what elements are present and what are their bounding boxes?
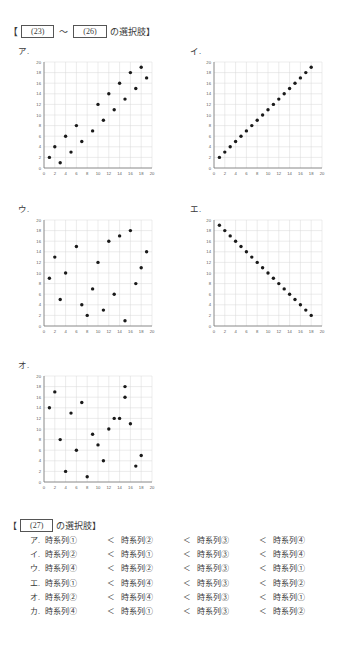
data-point: [113, 293, 116, 296]
data-point: [261, 113, 264, 116]
y-axis-tick-label: 14: [36, 91, 41, 96]
data-point: [102, 308, 105, 311]
data-point: [145, 250, 148, 253]
data-point: [283, 287, 286, 290]
x-axis-tick-label: 14: [117, 485, 122, 490]
less-than-symbol: ＜: [99, 591, 121, 602]
y-axis-tick-label: 10: [36, 271, 41, 276]
data-point: [283, 92, 286, 95]
x-axis-tick-label: 6: [75, 329, 78, 334]
y-axis-tick-label: 6: [39, 448, 42, 453]
y-axis-tick-label: 18: [36, 228, 41, 233]
x-axis-tick-label: 16: [128, 329, 133, 334]
y-axis-tick-label: 10: [206, 271, 211, 276]
x-axis-tick-label: 8: [86, 329, 89, 334]
option-row[interactable]: ア.時系列①＜時系列②＜時系列③＜時系列④: [30, 534, 327, 545]
data-point: [134, 282, 137, 285]
x-axis-tick-label: 14: [117, 171, 122, 176]
y-axis-tick-label: 18: [206, 70, 211, 75]
chart-label-u: ウ.: [18, 202, 29, 214]
data-point: [223, 229, 226, 232]
option-row[interactable]: ウ.時系列④＜時系列②＜時系列③＜時系列①: [30, 562, 327, 573]
y-axis-tick-label: 20: [36, 218, 41, 223]
data-point: [123, 319, 126, 322]
data-point: [69, 411, 72, 414]
data-point: [91, 287, 94, 290]
x-axis-tick-label: 4: [234, 171, 237, 176]
x-axis-tick-label: 10: [96, 485, 101, 490]
less-than-symbol: ＜: [99, 562, 121, 573]
x-axis-tick-label: 20: [150, 329, 155, 334]
y-axis-tick-label: 20: [36, 374, 41, 379]
less-than-symbol: ＜: [251, 577, 273, 588]
data-point: [310, 66, 313, 69]
data-point: [59, 161, 62, 164]
y-axis-tick-label: 14: [36, 405, 41, 410]
data-point: [48, 406, 51, 409]
scatter-plot-svg: 0246810121416182002468101214161820: [196, 214, 328, 340]
data-point: [75, 245, 78, 248]
y-axis-tick-label: 12: [206, 260, 211, 265]
x-axis-tick-label: 20: [320, 171, 325, 176]
y-axis-tick-label: 20: [206, 218, 211, 223]
option-key-label: エ.: [30, 577, 45, 588]
y-axis-tick-label: 18: [36, 384, 41, 389]
chart-label-e: エ.: [190, 202, 201, 214]
y-axis-tick-label: 18: [206, 228, 211, 233]
data-point: [96, 443, 99, 446]
option-term: 時系列③: [197, 562, 251, 573]
x-axis-tick-label: 20: [320, 329, 325, 334]
less-than-symbol: ＜: [251, 534, 273, 545]
scatter-plot-svg: 0246810121416182002468101214161820: [196, 56, 328, 182]
y-axis-tick-label: 8: [209, 123, 212, 128]
x-axis-tick-label: 4: [64, 171, 67, 176]
data-point: [53, 255, 56, 258]
chart-label-a: ア.: [18, 44, 29, 56]
data-point: [229, 234, 232, 237]
option-row[interactable]: エ.時系列①＜時系列④＜時系列③＜時系列②: [30, 577, 327, 588]
option-term: 時系列②: [121, 534, 175, 545]
less-than-symbol: ＜: [175, 577, 197, 588]
option-term: 時系列③: [197, 548, 251, 559]
x-axis-tick-label: 2: [54, 329, 57, 334]
data-point: [75, 124, 78, 127]
x-axis-tick-label: 14: [287, 171, 292, 176]
y-axis-tick-label: 8: [39, 437, 42, 442]
data-point: [239, 245, 242, 248]
data-point: [53, 145, 56, 148]
scatter-plot-svg: 0246810121416182002468101214161820: [26, 370, 158, 496]
data-point: [293, 298, 296, 301]
less-than-symbol: ＜: [99, 577, 121, 588]
option-row[interactable]: カ.時系列④＜時系列①＜時系列③＜時系列②: [30, 605, 327, 616]
option-key-label: ウ.: [30, 562, 45, 573]
x-axis-tick-label: 16: [298, 171, 303, 176]
less-than-symbol: ＜: [251, 605, 273, 616]
scatter-chart-u: 0246810121416182002468101214161820: [26, 214, 158, 340]
option-header-suffix: の選択肢】: [56, 519, 101, 532]
option-key-label: ア.: [30, 534, 45, 545]
y-axis-tick-label: 0: [39, 166, 42, 171]
data-point: [145, 76, 148, 79]
data-point: [288, 293, 291, 296]
x-axis-tick-label: 0: [43, 485, 46, 490]
scatter-plot-svg: 0246810121416182002468101214161820: [26, 214, 158, 340]
bracket-open: 【: [8, 24, 18, 39]
y-axis-tick-label: 10: [36, 113, 41, 118]
x-axis-tick-label: 18: [309, 171, 314, 176]
x-axis-tick-label: 4: [64, 329, 67, 334]
less-than-symbol: ＜: [99, 548, 121, 559]
scatter-chart-o: 0246810121416182002468101214161820: [26, 370, 158, 496]
less-than-symbol: ＜: [175, 591, 197, 602]
data-point: [277, 282, 280, 285]
data-point: [250, 124, 253, 127]
option-term: 時系列③: [197, 591, 251, 602]
option-row[interactable]: イ.時系列②＜時系列①＜時系列③＜時系列④: [30, 548, 327, 559]
option-term: 時系列④: [121, 591, 175, 602]
data-point: [288, 87, 291, 90]
option-row[interactable]: オ.時系列②＜時系列④＜時系列③＜時系列①: [30, 591, 327, 602]
data-point: [113, 417, 116, 420]
x-axis-tick-label: 0: [213, 329, 216, 334]
y-axis-tick-label: 12: [36, 260, 41, 265]
x-axis-tick-label: 12: [106, 485, 111, 490]
data-point: [250, 255, 253, 258]
